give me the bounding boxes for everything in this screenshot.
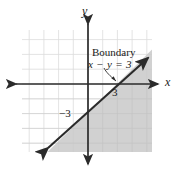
x-axis-label: x (165, 75, 170, 90)
x-intercept-tick-label: 3 (112, 86, 118, 98)
coordinate-plane-svg (0, 0, 177, 171)
y-axis-label: y (82, 4, 87, 19)
boundary-annotation-label: Boundary (92, 46, 135, 58)
y-intercept-tick-label: −3 (59, 107, 71, 119)
graph-figure: y x Boundary x − y = 3 3 −3 (0, 0, 177, 171)
equation-annotation-label: x − y = 3 (88, 58, 132, 70)
